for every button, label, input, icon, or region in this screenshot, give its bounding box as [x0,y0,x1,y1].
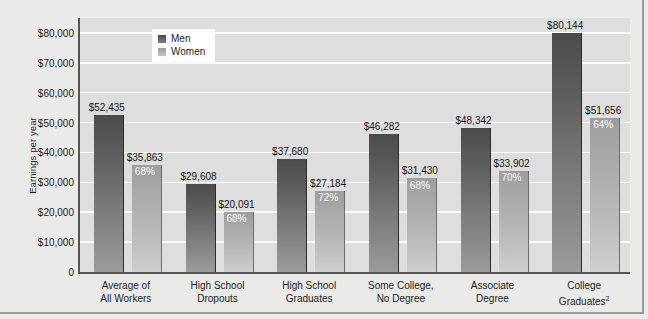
x-axis-label-line2-text: Degree [476,293,509,304]
chart-figure: Earnings per year 0$10,000$20,000$30,000… [0,0,648,319]
x-axis-label-line2: No Degree [368,293,434,306]
x-axis-category-labels: Average ofAll WorkersHigh SchoolDropouts… [0,0,648,319]
x-axis-label: Some College,No Degree [368,280,434,305]
x-axis-label-line2-text: Graduates [286,293,333,304]
x-axis-label: High SchoolGraduates [282,280,336,305]
x-axis-label-line2: Graduates2 [559,293,610,309]
x-axis-label-line2-text: No Degree [377,293,425,304]
x-axis-label-line2: Degree [471,293,514,306]
x-axis-label: CollegeGraduates2 [559,280,610,308]
x-axis-label-line2: Graduates [282,293,336,306]
x-axis-label-line1: Associate [471,280,514,293]
x-axis-label: Average ofAll Workers [100,280,151,305]
x-axis-label-line2-text: Graduates [559,296,606,307]
x-axis-label-line1: Average of [100,280,151,293]
x-axis-label-line2-text: All Workers [100,293,151,304]
x-axis-label-line2-text: Dropouts [197,293,238,304]
x-axis-label-line2: Dropouts [191,293,245,306]
x-axis-label-line1: College [559,280,610,293]
x-axis-label-line1: High School [282,280,336,293]
x-axis-label: High SchoolDropouts [191,280,245,305]
x-axis-label: AssociateDegree [471,280,514,305]
x-axis-label-line2: All Workers [100,293,151,306]
x-axis-label-line1: High School [191,280,245,293]
x-axis-label-footnote-marker: 2 [606,295,610,302]
x-axis-label-line1: Some College, [368,280,434,293]
